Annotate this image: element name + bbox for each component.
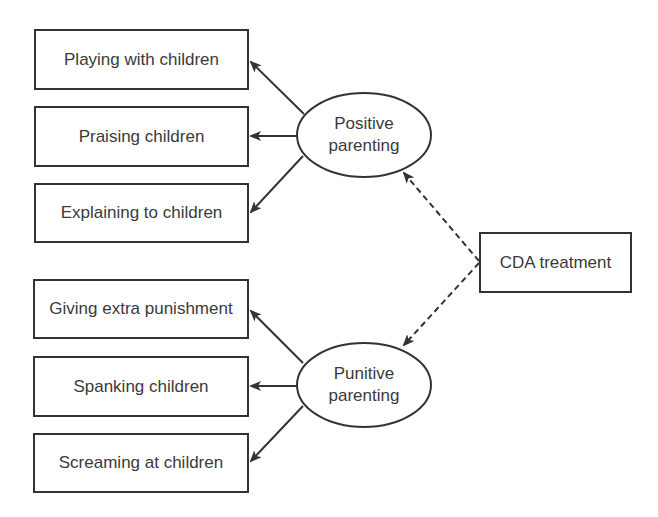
latent-label-line1: Positive: [334, 113, 394, 135]
cda-treatment-box: CDA treatment: [479, 232, 632, 293]
treatment-label: CDA treatment: [500, 253, 612, 273]
arrow-punitive-to-extra-punishment: [251, 311, 303, 363]
latent-label-line2: parenting: [329, 135, 400, 157]
dashed-arrow-cda-to-positive: [404, 173, 479, 261]
dashed-arrow-cda-to-punitive: [404, 263, 479, 345]
indicator-label: Playing with children: [64, 50, 219, 70]
indicator-playing-with-children: Playing with children: [34, 29, 249, 90]
indicator-praising-children: Praising children: [34, 106, 249, 167]
indicator-label: Praising children: [79, 127, 205, 147]
latent-label-line1: Punitive: [334, 363, 394, 385]
indicator-explaining-to-children: Explaining to children: [34, 183, 249, 243]
latent-label-line2: parenting: [329, 385, 400, 407]
punitive-parenting-label: Punitive parenting: [297, 343, 431, 427]
indicator-label: Explaining to children: [61, 203, 223, 223]
indicator-spanking-children: Spanking children: [33, 356, 249, 417]
indicator-label: Screaming at children: [59, 453, 223, 473]
arrow-positive-to-explaining: [251, 156, 303, 212]
positive-parenting-label: Positive parenting: [297, 93, 431, 177]
arrow-punitive-to-screaming: [251, 406, 303, 461]
indicator-giving-extra-punishment: Giving extra punishment: [33, 279, 249, 339]
indicator-screaming-at-children: Screaming at children: [33, 433, 249, 493]
indicator-label: Giving extra punishment: [49, 299, 232, 319]
indicator-label: Spanking children: [73, 377, 208, 397]
